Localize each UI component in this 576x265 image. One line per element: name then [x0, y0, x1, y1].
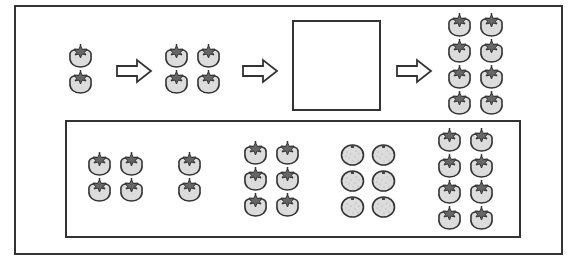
choice-2-persimmons-2[interactable] — [176, 151, 203, 203]
persimmon-icon — [436, 153, 463, 179]
choice-4-oranges-6[interactable] — [339, 141, 397, 219]
sequence-group-2-persimmons-4 — [163, 43, 222, 95]
orange-icon — [370, 193, 397, 219]
choice-5-persimmons-8[interactable] — [436, 127, 495, 231]
orange-icon — [370, 167, 397, 193]
persimmon-icon — [118, 151, 145, 177]
persimmon-icon — [242, 140, 269, 166]
arrow-right-icon — [241, 58, 279, 84]
persimmon-icon — [436, 127, 463, 153]
persimmon-icon — [478, 64, 505, 90]
persimmon-icon — [163, 43, 190, 69]
persimmon-icon — [446, 90, 473, 116]
persimmon-icon — [446, 38, 473, 64]
sequence-group-1-persimmons-2 — [67, 43, 94, 95]
persimmon-icon — [86, 151, 113, 177]
persimmon-icon — [468, 205, 495, 231]
choice-3-persimmons-6[interactable] — [242, 140, 301, 218]
persimmon-icon — [478, 38, 505, 64]
persimmon-icon — [274, 140, 301, 166]
orange-icon — [339, 193, 366, 219]
persimmon-icon — [242, 166, 269, 192]
persimmon-icon — [86, 177, 113, 203]
persimmon-icon — [67, 69, 94, 95]
persimmon-icon — [176, 177, 203, 203]
persimmon-icon — [468, 127, 495, 153]
persimmon-icon — [118, 177, 145, 203]
persimmon-icon — [478, 12, 505, 38]
arrow-right-icon — [115, 58, 153, 84]
orange-icon — [339, 167, 366, 193]
choice-1-persimmons-4[interactable] — [86, 151, 145, 203]
answer-blank-box[interactable] — [292, 20, 381, 111]
orange-icon — [339, 141, 366, 167]
persimmon-icon — [478, 90, 505, 116]
persimmon-icon — [195, 43, 222, 69]
persimmon-icon — [67, 43, 94, 69]
persimmon-icon — [195, 69, 222, 95]
persimmon-icon — [274, 166, 301, 192]
persimmon-icon — [163, 69, 190, 95]
persimmon-icon — [436, 179, 463, 205]
arrow-right-icon — [395, 58, 433, 84]
persimmon-icon — [468, 153, 495, 179]
orange-icon — [370, 141, 397, 167]
persimmon-icon — [436, 205, 463, 231]
persimmon-icon — [446, 64, 473, 90]
sequence-group-4-persimmons-8 — [446, 12, 505, 116]
persimmon-icon — [468, 179, 495, 205]
persimmon-icon — [242, 192, 269, 218]
persimmon-icon — [176, 151, 203, 177]
persimmon-icon — [446, 12, 473, 38]
persimmon-icon — [274, 192, 301, 218]
